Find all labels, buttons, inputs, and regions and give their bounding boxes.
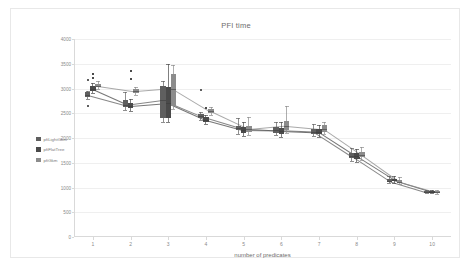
whisker-cap	[355, 149, 359, 150]
outlier-marker	[87, 79, 89, 81]
whisker-cap	[317, 137, 321, 138]
whisker-cap	[204, 115, 208, 116]
median-line	[397, 182, 403, 183]
y-tick-label: 3000	[61, 86, 71, 91]
whisker-cap	[242, 136, 246, 137]
x-tick-label: 7	[318, 241, 321, 247]
whisker-cap	[134, 95, 138, 96]
whisker-cap	[387, 176, 391, 177]
whisker-cap	[209, 107, 213, 108]
chart-legend: pfiLightGkmpfiFlatTreepfiGkm	[36, 136, 67, 168]
median-line	[90, 89, 96, 90]
whisker-cap	[96, 81, 100, 82]
whisker-cap	[392, 176, 396, 177]
outlier-marker	[205, 107, 207, 109]
median-line	[133, 91, 139, 92]
median-line	[128, 106, 134, 107]
whisker-cap	[317, 125, 321, 126]
plot-area: 0500100015002000250030003500400012345678…	[74, 39, 451, 237]
x-tick-mark	[281, 237, 282, 240]
x-tick-mark	[168, 237, 169, 240]
outlier-marker	[92, 73, 94, 75]
whisker-cap	[242, 122, 246, 123]
whisker-cap	[129, 99, 133, 100]
grid-line	[74, 188, 451, 189]
x-tick-label: 9	[393, 241, 396, 247]
whisker-cap	[274, 135, 278, 136]
x-tick-label: 8	[355, 241, 358, 247]
y-tick-label: 500	[63, 210, 71, 215]
x-tick-mark	[394, 237, 395, 240]
outlier-marker	[92, 77, 94, 79]
x-tick-mark	[357, 237, 358, 240]
x-tick-label: 10	[429, 241, 435, 247]
legend-swatch-icon	[36, 137, 41, 142]
median-line	[435, 192, 441, 193]
whisker-cap	[360, 147, 364, 148]
outlier-marker	[87, 105, 89, 107]
grid-line	[74, 64, 451, 65]
whisker-cap	[129, 111, 133, 112]
legend-item-label: pfiLightGkm	[44, 137, 67, 142]
legend-swatch-icon	[36, 158, 41, 163]
whisker-cap	[96, 89, 100, 90]
median-line	[95, 86, 101, 87]
whisker-cap	[236, 118, 240, 119]
outlier-marker	[130, 70, 132, 72]
grid-line	[74, 212, 451, 213]
x-tick-label: 3	[167, 241, 170, 247]
legend-item-1[interactable]: pfiFlatTree	[36, 147, 67, 153]
y-axis	[74, 39, 75, 237]
whisker-cap	[387, 183, 391, 184]
whisker-cap	[392, 183, 396, 184]
chart-frame: PFI time 0500100015002000250030003500400…	[10, 8, 460, 258]
y-tick-label: 1000	[61, 185, 71, 190]
median-line	[246, 129, 252, 130]
whisker-cap	[398, 184, 402, 185]
whisker-cap	[285, 133, 289, 134]
x-axis-label: number of predicates	[74, 252, 451, 258]
whisker-cap	[279, 122, 283, 123]
x-tick-label: 2	[129, 241, 132, 247]
whisker-cap	[274, 122, 278, 123]
whisker-cap	[123, 110, 127, 111]
chart-title: PFI time	[11, 21, 461, 30]
whisker-cap	[312, 136, 316, 137]
whisker-cap	[86, 99, 90, 100]
whisker-cap	[322, 122, 326, 123]
whisker-cap	[430, 193, 434, 194]
whisker-cap	[322, 134, 326, 135]
whisker-cap	[161, 81, 165, 82]
outlier-marker	[130, 78, 132, 80]
whisker-cap	[199, 120, 203, 121]
whisker-cap	[91, 83, 95, 84]
legend-item-label: pfiGkm	[44, 158, 58, 163]
median-line	[359, 155, 365, 156]
y-tick-label: 0	[68, 235, 71, 240]
whisker-cap	[312, 124, 316, 125]
grid-line	[74, 163, 451, 164]
whisker-cap	[247, 117, 251, 118]
x-tick-label: 4	[205, 241, 208, 247]
whisker-cap	[171, 109, 175, 110]
median-line	[284, 126, 290, 127]
y-tick-label: 2500	[61, 111, 71, 116]
whisker-cap	[166, 122, 170, 123]
whisker-cap	[425, 193, 429, 194]
legend-swatch-icon	[36, 147, 41, 152]
legend-item-0[interactable]: pfiLightGkm	[36, 136, 67, 142]
whisker-cap	[171, 65, 175, 66]
outlier-marker	[200, 89, 202, 91]
whisker-cap	[134, 87, 138, 88]
median-line	[171, 89, 177, 90]
whisker-cap	[204, 124, 208, 125]
grid-line	[74, 138, 451, 139]
whisker-cap	[398, 177, 402, 178]
x-tick-mark	[206, 237, 207, 240]
whisker-cap	[247, 135, 251, 136]
x-tick-mark	[319, 237, 320, 240]
whisker-cap	[166, 64, 170, 65]
median-line	[208, 111, 214, 112]
x-tick-label: 5	[242, 241, 245, 247]
legend-item-2[interactable]: pfiGkm	[36, 157, 67, 163]
